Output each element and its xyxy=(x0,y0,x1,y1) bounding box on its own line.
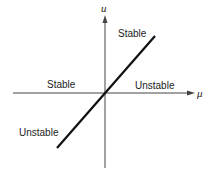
solution-branch xyxy=(57,36,155,148)
diagram-graphics xyxy=(0,0,211,174)
label-right-unstable: Unstable xyxy=(135,81,174,91)
label-upper-right-stable: Stable xyxy=(118,29,146,39)
vertical-axis-label: u xyxy=(101,3,107,14)
label-lower-left-unstable: Unstable xyxy=(19,128,58,138)
bifurcation-diagram: u μ Stable Stable Unstable Unstable xyxy=(0,0,211,174)
horizontal-axis-label: μ xyxy=(197,88,203,99)
horizontal-axis-arrow-icon xyxy=(187,91,195,96)
vertical-axis-arrow-icon xyxy=(103,15,108,23)
label-left-stable: Stable xyxy=(47,80,75,90)
